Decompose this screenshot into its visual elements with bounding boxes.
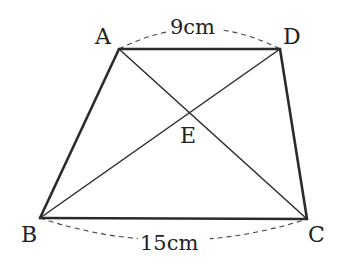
- edge-dc: [280, 49, 307, 219]
- vertex-label-a: A: [94, 24, 112, 49]
- vertex-label-e: E: [180, 123, 196, 148]
- edge-ba: [40, 49, 119, 218]
- top-length-label: 9cm: [170, 15, 215, 39]
- vertex-label-d: D: [283, 24, 301, 49]
- diagonal-bd: [40, 49, 280, 218]
- diagonal-ac: [119, 49, 307, 219]
- trapezoid-diagram: A D B C E 9cm 15cm: [0, 0, 346, 269]
- edge-cb: [40, 218, 307, 219]
- vertex-label-c: C: [308, 222, 325, 247]
- bottom-length-label: 15cm: [140, 231, 198, 255]
- vertex-label-b: B: [21, 222, 37, 247]
